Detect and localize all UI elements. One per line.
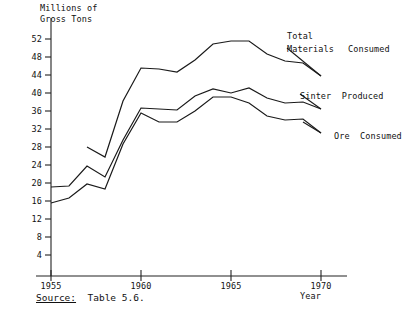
series-label-total-materials-line1: Total (287, 31, 313, 42)
y-tick-label-44: 44 (26, 70, 42, 81)
x-axis-title: Year (300, 291, 321, 302)
y-tick-label-36: 36 (26, 106, 42, 117)
series-label-total-materials-line2: Materials (287, 44, 334, 55)
y-tick-label-12: 12 (26, 214, 42, 225)
y-tick-label-28: 28 (26, 142, 42, 153)
series-label-ore-consumed: Ore Consumed (334, 131, 402, 142)
x-tick-label-1955: 1955 (35, 281, 67, 292)
line-chart-figure: Millions ofGross Tons (0, 0, 411, 315)
source-reference: Table 5.6. (76, 292, 145, 303)
y-tick-label-40: 40 (26, 88, 42, 99)
y-tick-label-48: 48 (26, 52, 42, 63)
series-line-total-materials (87, 41, 321, 157)
y-tick-label-52: 52 (26, 34, 42, 45)
x-tick-label-1965: 1965 (215, 281, 247, 292)
y-tick-label-4: 4 (26, 250, 42, 261)
series-label-total-materials-consumed: Consumed (348, 44, 390, 55)
y-tick-label-8: 8 (26, 232, 42, 243)
y-tick-label-20: 20 (26, 178, 42, 189)
y-tick-label-24: 24 (26, 160, 42, 171)
series-line-sinter-produced (51, 88, 321, 187)
x-tick-label-1960: 1960 (125, 281, 157, 292)
source-note: Source: Table 5.6. (36, 292, 145, 303)
y-tick-marks (45, 39, 51, 255)
y-tick-label-32: 32 (26, 124, 42, 135)
series-label-sinter-produced: Sinter Produced (300, 91, 383, 102)
source-label: Source: (36, 292, 76, 303)
leader-line-ore (303, 122, 321, 133)
y-tick-label-16: 16 (26, 196, 42, 207)
